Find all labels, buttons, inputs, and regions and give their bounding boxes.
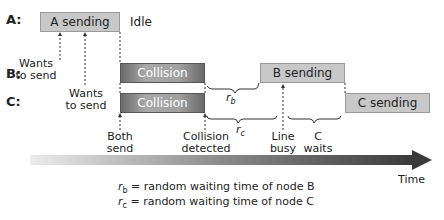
coll-line2: detected bbox=[176, 143, 236, 155]
b-wants-line2: to send bbox=[12, 70, 60, 82]
c-waits-line2: waits bbox=[300, 143, 336, 155]
c-waits: C waits bbox=[300, 131, 336, 155]
legend-rb-text: = random waiting time of node B bbox=[128, 180, 315, 193]
line-busy-line2: busy bbox=[268, 143, 298, 155]
collision-detected: Collision detected bbox=[176, 131, 236, 155]
both-send: Both send bbox=[100, 131, 140, 155]
rc-label: rc bbox=[236, 124, 245, 140]
b-wants-to-send: Wants to send bbox=[12, 58, 60, 82]
time-axis-label: Time bbox=[398, 174, 425, 186]
c-wants-line2: to send bbox=[62, 100, 110, 112]
c-wants-to-send: Wants to send bbox=[62, 88, 110, 112]
legend-rc-text: = random waiting time of node C bbox=[127, 195, 314, 208]
legend-rc: rc = random waiting time of node C bbox=[118, 195, 314, 210]
rc-sub: c bbox=[241, 129, 245, 138]
rb-sub: b bbox=[231, 97, 236, 106]
both-line2: send bbox=[100, 143, 140, 155]
rb-label: rb bbox=[226, 92, 236, 108]
legend-rb: rb = random waiting time of node B bbox=[118, 180, 315, 195]
line-busy: Line busy bbox=[268, 131, 298, 155]
